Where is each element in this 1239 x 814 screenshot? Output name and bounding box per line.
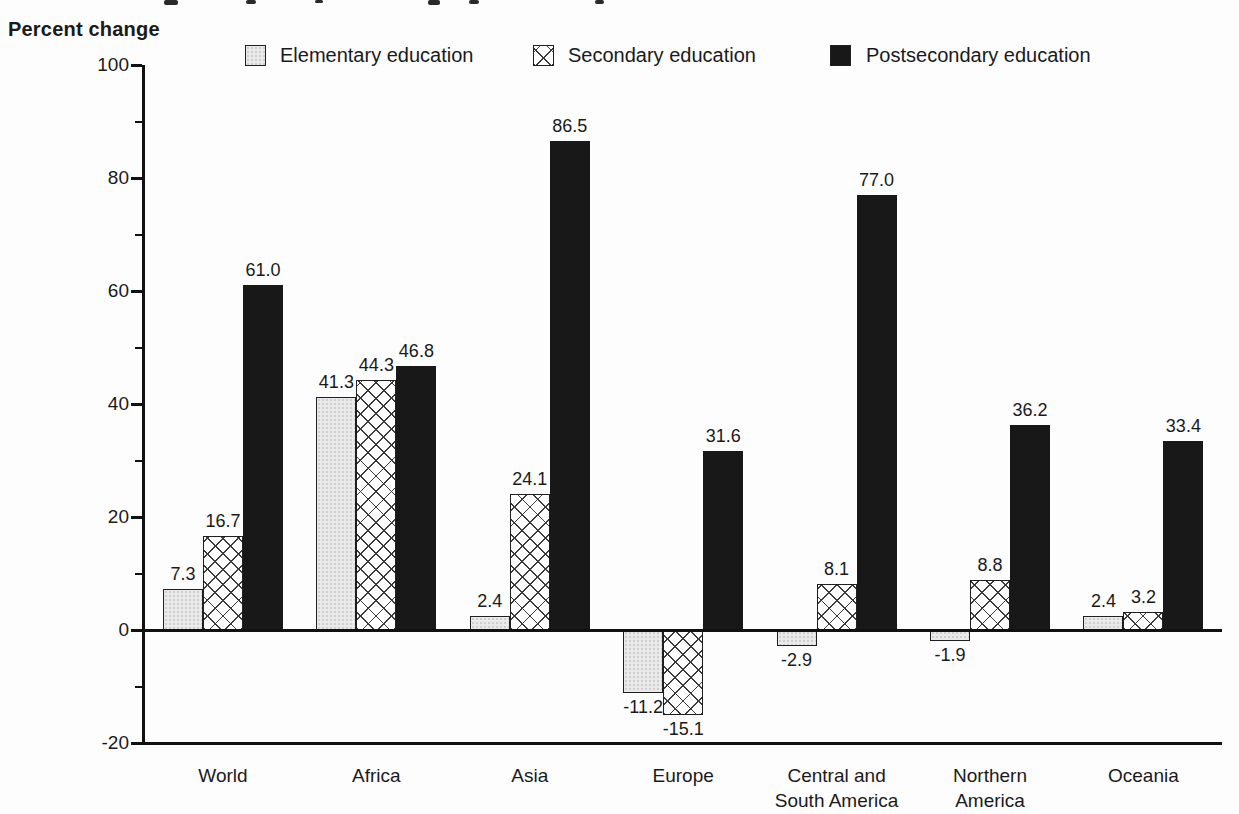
y-major-tick <box>131 403 142 406</box>
bar-value-label: 61.0 <box>223 260 303 281</box>
y-axis-line <box>142 65 145 745</box>
bar-value-label: 46.8 <box>376 341 456 362</box>
bar-postsecondary-0 <box>243 285 283 630</box>
y-minor-tick <box>135 347 142 350</box>
bar-postsecondary-5 <box>1010 425 1050 630</box>
y-minor-tick <box>135 686 142 689</box>
bar-value-label: 31.6 <box>683 426 763 447</box>
bar-secondary-6 <box>1123 612 1163 630</box>
y-minor-tick <box>135 234 142 237</box>
y-major-tick <box>131 290 142 293</box>
bar-value-label: 36.2 <box>990 400 1070 421</box>
y-minor-tick <box>135 121 142 124</box>
category-label-0: World <box>138 763 308 788</box>
y-major-tick <box>131 742 142 745</box>
bar-postsecondary-6 <box>1163 441 1203 630</box>
x-axis-bottom-line <box>145 742 1222 745</box>
bar-secondary-4 <box>817 584 857 630</box>
bar-postsecondary-4 <box>857 195 897 630</box>
bar-secondary-0 <box>203 536 243 630</box>
bar-postsecondary-1 <box>396 366 436 630</box>
zero-line <box>145 629 1222 632</box>
category-label-4: Central andSouth America <box>752 763 922 813</box>
bar-secondary-5 <box>970 580 1010 630</box>
y-tick-label: 40 <box>69 393 129 415</box>
y-major-tick <box>131 177 142 180</box>
y-major-tick <box>131 516 142 519</box>
bar-secondary-1 <box>356 380 396 630</box>
category-label-3: Europe <box>598 763 768 788</box>
category-label-1: Africa <box>291 763 461 788</box>
bar-value-label: 77.0 <box>837 170 917 191</box>
category-label-2: Asia <box>445 763 615 788</box>
bar-chart: 7.341.32.4-11.2-2.9-1.92.416.744.324.1-1… <box>0 0 1239 814</box>
bar-elementary-1 <box>316 397 356 630</box>
y-tick-label: 100 <box>69 54 129 76</box>
y-tick-label: 60 <box>69 280 129 302</box>
category-label-6: Oceania <box>1058 763 1228 788</box>
y-major-tick <box>131 629 142 632</box>
y-major-tick <box>131 64 142 67</box>
bar-elementary-6 <box>1083 616 1123 630</box>
y-tick-label: 20 <box>69 506 129 528</box>
y-tick-label: 0 <box>69 619 129 641</box>
y-tick-label: 80 <box>69 167 129 189</box>
bar-value-label: -15.1 <box>643 719 723 740</box>
bar-postsecondary-2 <box>550 141 590 630</box>
bar-postsecondary-3 <box>703 451 743 630</box>
bar-secondary-3 <box>663 630 703 715</box>
bar-elementary-2 <box>470 616 510 630</box>
bar-value-label: 86.5 <box>530 116 610 137</box>
bar-elementary-4 <box>777 630 817 646</box>
category-label-5: NorthernAmerica <box>905 763 1075 813</box>
y-tick-label: -20 <box>69 732 129 754</box>
bar-value-label: -1.9 <box>910 645 990 666</box>
y-minor-tick <box>135 460 142 463</box>
bar-value-label: -2.9 <box>757 650 837 671</box>
bar-secondary-2 <box>510 494 550 630</box>
bar-value-label: 33.4 <box>1143 416 1223 437</box>
bar-elementary-3 <box>623 630 663 693</box>
y-minor-tick <box>135 573 142 576</box>
bar-elementary-0 <box>163 589 203 630</box>
